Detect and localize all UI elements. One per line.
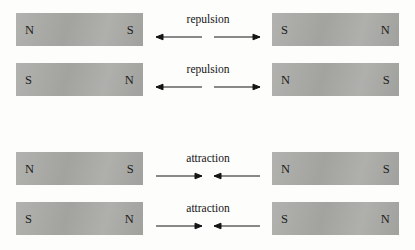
interaction-label: attraction: [150, 153, 266, 165]
pole-label-south: S: [127, 162, 134, 175]
magnet-pair-row: S N repulsion N S: [0, 63, 415, 96]
magnet-pair-row: S N attraction S N: [0, 202, 415, 235]
arrows-converging-icon: [150, 169, 266, 183]
interaction-label: repulsion: [150, 64, 266, 76]
arrows-diverging-icon: [150, 30, 266, 44]
magnet-pair-row: N S repulsion S N: [0, 13, 415, 46]
magnet-bar-left: S N: [16, 202, 143, 235]
pole-label-south: S: [281, 212, 288, 225]
pole-label-north: N: [381, 212, 390, 225]
pole-label-north: N: [25, 162, 34, 175]
magnet-interaction-diagram: N S repulsion S N S: [0, 0, 415, 250]
arrows-diverging-icon: [150, 80, 266, 94]
magnet-bar-left: N S: [16, 13, 143, 46]
magnet-bar-left: N S: [16, 152, 143, 185]
pole-label-south: S: [383, 162, 390, 175]
pole-label-north: N: [381, 23, 390, 36]
magnet-bar-right: S N: [272, 13, 399, 46]
interaction-group: attraction: [150, 152, 266, 185]
magnet-bar-right: N S: [272, 152, 399, 185]
pole-label-north: N: [281, 162, 290, 175]
pole-label-north: N: [25, 23, 34, 36]
pole-label-north: N: [125, 73, 134, 86]
arrows-converging-icon: [150, 219, 266, 233]
magnet-pair-row: N S attraction N S: [0, 152, 415, 185]
magnet-bar-left: S N: [16, 63, 143, 96]
pole-label-north: N: [281, 73, 290, 86]
pole-label-north: N: [125, 212, 134, 225]
pole-label-south: S: [383, 73, 390, 86]
pole-label-south: S: [127, 23, 134, 36]
interaction-label: attraction: [150, 203, 266, 215]
magnet-bar-right: S N: [272, 202, 399, 235]
pole-label-south: S: [25, 73, 32, 86]
interaction-group: attraction: [150, 202, 266, 235]
interaction-group: repulsion: [150, 63, 266, 96]
pole-label-south: S: [25, 212, 32, 225]
magnet-bar-right: N S: [272, 63, 399, 96]
interaction-group: repulsion: [150, 13, 266, 46]
interaction-label: repulsion: [150, 14, 266, 26]
pole-label-south: S: [281, 23, 288, 36]
